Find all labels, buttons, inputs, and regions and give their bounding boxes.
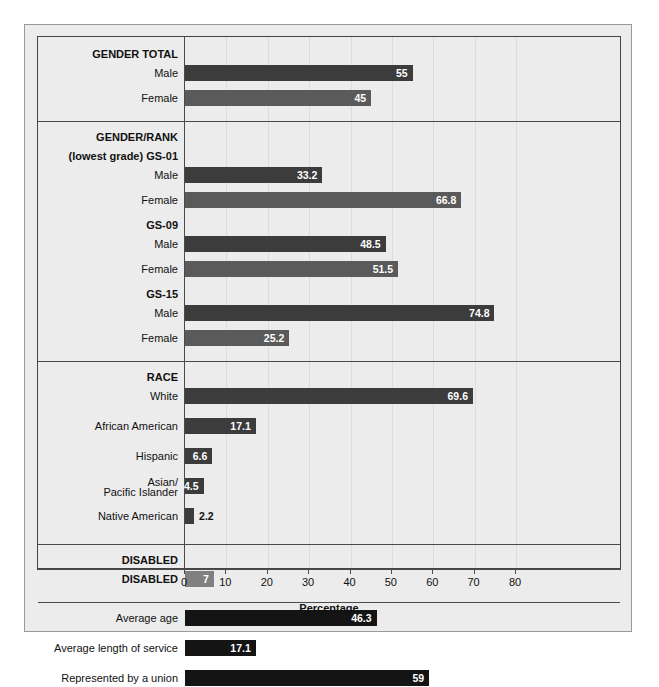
- bar-value-label: 55: [396, 67, 408, 79]
- section-header-gender-rank: (lowest grade) GS-01: [38, 147, 620, 165]
- bar-value-label: 7: [203, 573, 209, 585]
- x-tick-label-30: 30: [302, 576, 314, 588]
- chart-row: Female51.5: [38, 260, 620, 278]
- x-tick-70: [474, 569, 475, 574]
- section-divider-0: [38, 121, 620, 122]
- section-divider-2: [38, 544, 620, 545]
- bar: 6.6: [185, 448, 212, 464]
- row-label: White: [38, 387, 178, 405]
- bar: 55: [185, 65, 413, 81]
- bar: 48.5: [185, 236, 386, 252]
- bar: 25.2: [185, 330, 289, 346]
- section-header-label: GENDER/RANK: [38, 128, 178, 146]
- bar-value-label: 17.1: [230, 420, 250, 432]
- chart-row: DISABLED7: [38, 570, 620, 588]
- bar: 17.1: [185, 640, 256, 656]
- row-label: Native American: [38, 507, 178, 525]
- section-header-label: DISABLED: [38, 551, 178, 569]
- section-header-label: (lowest grade) GS-01: [38, 147, 178, 165]
- bar: 74.8: [185, 305, 494, 321]
- row-label: Female: [38, 260, 178, 278]
- chart-row: Female45: [38, 89, 620, 107]
- chart-row: Native American2.2: [38, 507, 620, 525]
- x-tick-label-70: 70: [468, 576, 480, 588]
- x-tick-label-10: 10: [219, 576, 231, 588]
- section-divider-1: [38, 361, 620, 362]
- chart-row: African American17.1: [38, 417, 620, 435]
- chart-row: Average length of service17.1: [38, 639, 620, 657]
- chart-row: GS-09: [38, 216, 620, 234]
- bar-value-label: 33.2: [297, 169, 317, 181]
- x-tick-label-0: 0: [181, 576, 187, 588]
- bar: 7: [185, 571, 214, 587]
- row-label: Average length of service: [38, 639, 178, 657]
- chart-row: White69.6: [38, 387, 620, 405]
- bar-value-label: 48.5: [360, 238, 380, 250]
- bar: 69.6: [185, 388, 473, 404]
- x-tick-20: [267, 569, 268, 574]
- row-label: Female: [38, 191, 178, 209]
- chart-row: Female66.8: [38, 191, 620, 209]
- section-header-label: GENDER TOTAL: [38, 45, 178, 63]
- chart-row: Hispanic6.6: [38, 447, 620, 465]
- chart-row: GS-15: [38, 285, 620, 303]
- bar: 4.5: [185, 478, 204, 494]
- x-tick-label-50: 50: [385, 576, 397, 588]
- bar: 33.2: [185, 167, 322, 183]
- x-axis: 01020304050607080: [37, 569, 621, 570]
- bar: 59: [185, 670, 429, 686]
- chart-row: Female25.2: [38, 329, 620, 347]
- bar: 51.5: [185, 261, 398, 277]
- chart-plot-area: GENDER TOTALMale55Female45GENDER/RANK(lo…: [37, 36, 621, 569]
- row-label: Male: [38, 304, 178, 322]
- chart-row: Male55: [38, 64, 620, 82]
- x-tick-label-80: 80: [509, 576, 521, 588]
- bar-value-label: 51.5: [373, 263, 393, 275]
- bar-value-label: 2.2: [199, 510, 214, 522]
- row-label: Female: [38, 329, 178, 347]
- section-header-race: RACE: [38, 368, 620, 386]
- row-label: DISABLED: [38, 570, 178, 588]
- row-label: GS-09: [38, 216, 178, 234]
- x-tick-label-40: 40: [343, 576, 355, 588]
- row-label: Asian/Pacific Islander: [38, 476, 178, 498]
- x-axis-title: Percentage: [37, 602, 621, 614]
- bar-value-label: 69.6: [448, 390, 468, 402]
- chart-row: Represented by a union59: [38, 669, 620, 687]
- section-header-label: RACE: [38, 368, 178, 386]
- row-label: Female: [38, 89, 178, 107]
- bar-value-label: 74.8: [469, 307, 489, 319]
- figure-frame: GENDER TOTALMale55Female45GENDER/RANK(lo…: [24, 24, 632, 632]
- bar-value-label: 45: [355, 92, 367, 104]
- x-tick-label-60: 60: [426, 576, 438, 588]
- bar-value-label: 4.5: [184, 480, 199, 492]
- section-header-gender-rank: GENDER/RANK: [38, 128, 620, 146]
- row-label: Male: [38, 235, 178, 253]
- bar: 66.8: [185, 192, 461, 208]
- bar-value-label: 17.1: [230, 642, 250, 654]
- x-tick-10: [225, 569, 226, 574]
- row-label: Male: [38, 166, 178, 184]
- x-tick-50: [391, 569, 392, 574]
- x-tick-0: [184, 569, 185, 574]
- bar-value-label: 6.6: [193, 450, 208, 462]
- row-label: Hispanic: [38, 447, 178, 465]
- bar: 17.1: [185, 418, 256, 434]
- chart-row: Male48.5: [38, 235, 620, 253]
- bar-value-label: 59: [412, 672, 424, 684]
- chart-row: Male33.2: [38, 166, 620, 184]
- row-label: African American: [38, 417, 178, 435]
- x-tick-80: [515, 569, 516, 574]
- bar-value-label: 25.2: [264, 332, 284, 344]
- bar-value-label: 66.8: [436, 194, 456, 206]
- bar: 2.2: [185, 508, 194, 524]
- x-tick-label-20: 20: [261, 576, 273, 588]
- chart-row: Asian/Pacific Islander4.5: [38, 477, 620, 495]
- row-label: Male: [38, 64, 178, 82]
- x-tick-40: [350, 569, 351, 574]
- row-label: Represented by a union: [38, 669, 178, 687]
- chart-row: Male74.8: [38, 304, 620, 322]
- bar: 45: [185, 90, 371, 106]
- x-tick-60: [432, 569, 433, 574]
- section-header-gender-total: GENDER TOTAL: [38, 45, 620, 63]
